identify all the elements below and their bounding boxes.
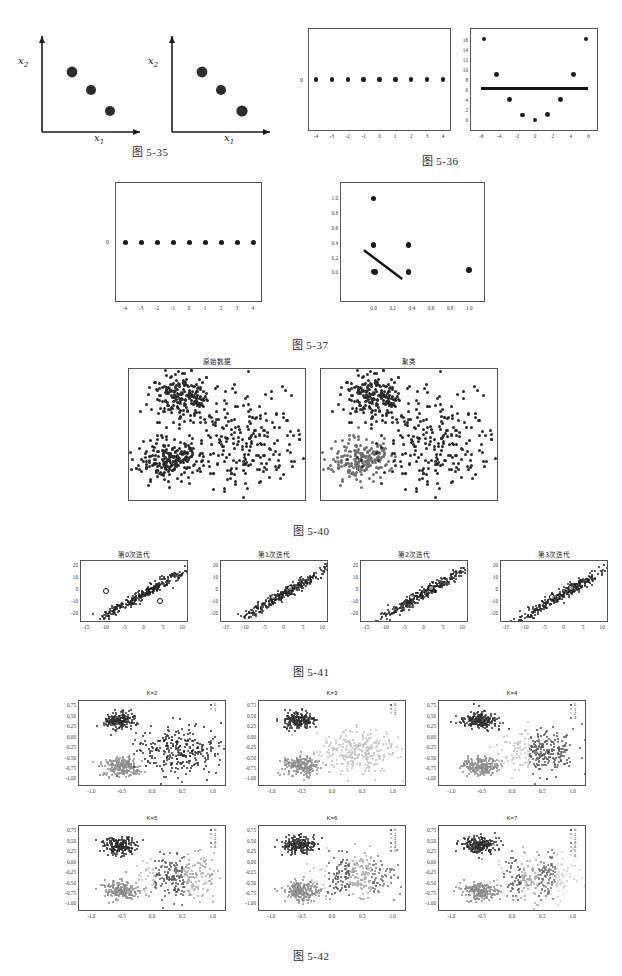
data-point bbox=[547, 851, 549, 853]
data-point bbox=[168, 459, 171, 462]
data-point bbox=[379, 869, 381, 871]
data-point bbox=[290, 896, 292, 898]
legend-label: 2 bbox=[394, 711, 396, 716]
data-point bbox=[365, 865, 367, 867]
data-point bbox=[353, 449, 356, 452]
plot-frame bbox=[438, 700, 586, 786]
data-point bbox=[556, 766, 558, 768]
data-point bbox=[228, 453, 231, 456]
data-point bbox=[177, 579, 179, 581]
data-point bbox=[137, 890, 139, 892]
y-tick-label: 6 bbox=[458, 87, 468, 93]
y-tick-label: -20 bbox=[487, 610, 498, 616]
data-point bbox=[380, 749, 382, 751]
data-point bbox=[486, 723, 488, 725]
data-point bbox=[110, 613, 112, 615]
data-point bbox=[422, 419, 425, 422]
data-point bbox=[392, 442, 395, 445]
data-point bbox=[573, 878, 575, 880]
data-point bbox=[124, 849, 126, 851]
y-tick-label: 10 bbox=[67, 574, 78, 580]
y-tick-label: 0.00 bbox=[243, 859, 256, 865]
plot-title: 第3次迭代 bbox=[538, 549, 570, 559]
data-point bbox=[298, 438, 301, 441]
data-point bbox=[357, 757, 359, 759]
data-point bbox=[205, 875, 207, 877]
data-point bbox=[134, 739, 136, 741]
data-point bbox=[521, 876, 523, 878]
data-point bbox=[317, 578, 319, 580]
data-point bbox=[177, 754, 179, 756]
data-point bbox=[375, 759, 377, 761]
data-point bbox=[338, 870, 340, 872]
data-point bbox=[491, 897, 493, 899]
x-tick-label: 0.4 bbox=[409, 305, 415, 311]
data-point bbox=[175, 573, 177, 575]
data-point bbox=[295, 773, 297, 775]
data-point bbox=[195, 460, 198, 463]
data-point bbox=[370, 888, 372, 890]
data-point bbox=[130, 468, 133, 471]
centroid-marker bbox=[157, 598, 163, 604]
data-point bbox=[182, 409, 185, 412]
data-point bbox=[586, 586, 588, 588]
data-point bbox=[383, 736, 385, 738]
data-point bbox=[416, 592, 418, 594]
data-point bbox=[363, 447, 366, 450]
data-point bbox=[539, 743, 541, 745]
data-point bbox=[314, 77, 318, 81]
data-point bbox=[256, 443, 259, 446]
plot-frame bbox=[80, 560, 188, 622]
x-tick-label: 6 bbox=[587, 133, 590, 139]
data-point bbox=[300, 576, 302, 578]
x-tick-label: 1.0 bbox=[569, 788, 575, 794]
data-point bbox=[138, 597, 140, 599]
plot-title: K=6 bbox=[327, 815, 338, 821]
data-point bbox=[536, 729, 538, 731]
data-point bbox=[323, 458, 326, 461]
data-point bbox=[104, 765, 106, 767]
data-point bbox=[485, 460, 488, 463]
data-point bbox=[455, 715, 457, 717]
x-tick-label: -10 bbox=[382, 624, 389, 630]
data-point bbox=[361, 888, 363, 890]
data-point bbox=[535, 754, 537, 756]
data-point bbox=[151, 755, 153, 757]
data-point bbox=[375, 863, 377, 865]
data-point bbox=[163, 461, 166, 464]
data-point bbox=[433, 438, 436, 441]
data-point bbox=[219, 759, 221, 761]
data-point bbox=[354, 410, 357, 413]
data-point bbox=[232, 442, 235, 445]
data-point bbox=[374, 770, 376, 772]
data-point bbox=[346, 765, 348, 767]
data-point bbox=[196, 874, 198, 876]
data-point bbox=[506, 756, 508, 758]
y-tick-label: 0.50 bbox=[243, 838, 256, 844]
y-tick-label: -1.00 bbox=[63, 775, 76, 781]
data-point bbox=[470, 453, 473, 456]
fit-line bbox=[481, 87, 587, 90]
fig-5-41-fig541-p1: 第1次迭代-15-10-50510-20-1001020 bbox=[220, 560, 332, 642]
data-point bbox=[492, 758, 494, 760]
data-point bbox=[287, 712, 289, 714]
data-point bbox=[337, 467, 340, 470]
data-point bbox=[242, 404, 245, 407]
data-point bbox=[130, 709, 132, 711]
data-point bbox=[377, 855, 379, 857]
plot-frame bbox=[78, 700, 226, 786]
data-point bbox=[193, 764, 195, 766]
data-point bbox=[183, 891, 185, 893]
data-point bbox=[144, 456, 147, 459]
data-point bbox=[483, 842, 485, 844]
data-point bbox=[503, 876, 505, 878]
fig-5-36-caption: 图 5-36 bbox=[390, 152, 490, 168]
data-point bbox=[207, 889, 209, 891]
y-tick-label: -0.25 bbox=[243, 744, 256, 750]
data-point bbox=[263, 454, 266, 457]
data-point bbox=[448, 443, 451, 446]
data-point bbox=[501, 867, 503, 869]
data-point bbox=[317, 843, 319, 845]
data-point bbox=[294, 851, 296, 853]
data-point bbox=[144, 740, 146, 742]
